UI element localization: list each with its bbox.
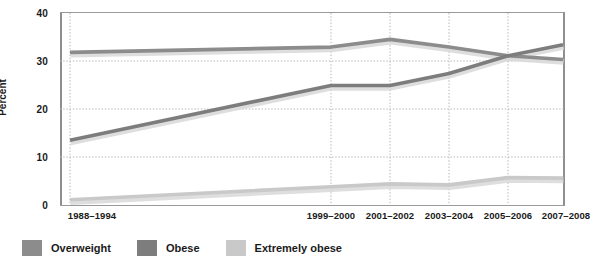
legend-label-overweight: Overweight	[51, 242, 111, 254]
x-tick-label-2001-2002: 2001–2002	[366, 210, 414, 221]
legend-item-overweight[interactable]: Overweight	[22, 240, 111, 256]
horizontal-gridlines	[60, 61, 565, 157]
y-tick-label-10: 10	[0, 152, 48, 163]
legend-label-extremely-obese: Extremely obese	[255, 242, 342, 254]
legend-swatch-extremely-obese	[226, 240, 246, 256]
vertical-gridlines	[70, 13, 508, 205]
x-tick-label-2003-2004: 2003–2004	[425, 210, 473, 221]
x-tick-label-2007-2008: 2007–2008	[542, 210, 590, 221]
y-tick-label-40: 40	[0, 8, 48, 19]
line-chart-figure: Percent 40 30 20 10 0 1988–1994 1999–200…	[0, 0, 602, 263]
legend-item-extremely-obese[interactable]: Extremely obese	[226, 240, 342, 256]
x-tick-label-1999-2000: 1999–2000	[307, 210, 355, 221]
x-tick-label-2005-2006: 2005–2006	[484, 210, 532, 221]
chart-legend: Overweight Obese Extremely obese	[22, 240, 368, 256]
legend-swatch-overweight	[22, 240, 42, 256]
legend-label-obese: Obese	[166, 242, 200, 254]
y-tick-label-30: 30	[0, 56, 48, 67]
series-line-extremely-obese	[70, 178, 563, 200]
legend-item-obese[interactable]: Obese	[137, 240, 200, 256]
x-tick-label-1988-1994: 1988–1994	[68, 210, 116, 221]
series-shadow-layer	[71, 42, 564, 202]
series-shadow-2	[71, 180, 564, 202]
y-tick-label-20: 20	[0, 104, 48, 115]
bottom-frame-line	[60, 205, 564, 206]
y-tick-label-0: 0	[0, 200, 48, 211]
plot-svg	[60, 13, 565, 205]
plot-area	[60, 13, 565, 205]
legend-swatch-obese	[137, 240, 157, 256]
